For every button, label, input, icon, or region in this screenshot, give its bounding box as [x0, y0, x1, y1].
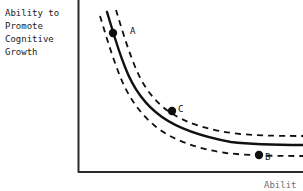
y-axis-label: Ability to Promote Cognitive Growth — [5, 7, 59, 59]
data-point-label-c: C — [178, 104, 183, 114]
x-axis-label: Abilit — [264, 179, 297, 191]
data-point-label-b: B — [265, 152, 270, 162]
data-point-a-marker — [109, 29, 117, 37]
upper-band-curve — [116, 10, 303, 136]
central-curve — [107, 12, 303, 145]
data-point-c-marker — [168, 107, 176, 115]
data-point-label-a: A — [130, 26, 135, 36]
data-point-b-marker — [255, 151, 263, 159]
figure-canvas: Ability to Promote Cognitive Growth A C … — [0, 0, 303, 191]
